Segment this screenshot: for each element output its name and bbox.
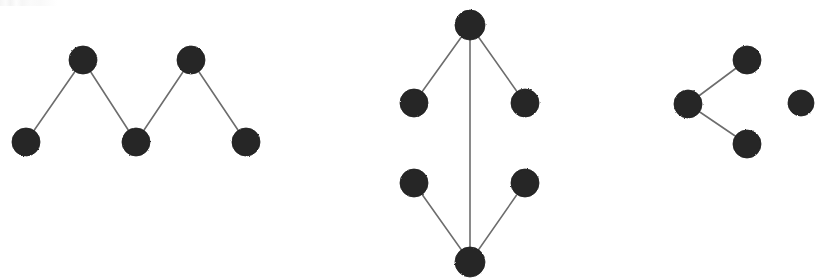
graph-diagram (0, 0, 832, 278)
graph-node (511, 169, 539, 197)
graph-node (400, 169, 428, 197)
graph-node (733, 130, 761, 158)
graph-node (122, 128, 150, 156)
node-group-component-left (12, 46, 260, 156)
graph-edge (26, 60, 83, 142)
graph-edge (136, 60, 191, 142)
graph-node (69, 46, 97, 74)
graph-node (177, 46, 205, 74)
graph-edge (191, 60, 246, 142)
graph-node (455, 10, 485, 40)
node-group-component-right (674, 46, 814, 158)
graph-node (232, 128, 260, 156)
graph-node (511, 89, 539, 117)
graph-node (12, 128, 40, 156)
nodes-layer (12, 10, 814, 277)
graph-edge (83, 60, 136, 142)
graph-node (788, 90, 814, 116)
graph-node (733, 46, 761, 74)
graph-node (455, 247, 485, 277)
graph-node (400, 89, 428, 117)
edge-group-component-middle (414, 25, 525, 262)
graph-node (674, 90, 702, 118)
figure-canvas (0, 0, 832, 278)
